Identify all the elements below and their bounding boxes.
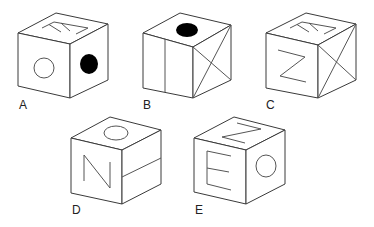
option-label-a: A <box>19 98 27 112</box>
cube-b[interactable]: B <box>143 13 231 112</box>
cube-e[interactable]: E <box>194 117 285 217</box>
cube-e-front-face <box>194 138 246 204</box>
cube-a[interactable]: A <box>18 13 108 112</box>
cube-d[interactable]: D <box>71 117 161 217</box>
cube-a-front-face <box>18 33 70 98</box>
filled-circle-icon <box>80 54 98 74</box>
option-label-b: B <box>143 98 151 112</box>
cube-options-diagram: A B C <box>0 0 374 227</box>
option-label-e: E <box>195 203 203 217</box>
option-label-c: C <box>266 98 275 112</box>
cube-c[interactable]: C <box>266 13 356 112</box>
filled-circle-icon <box>176 23 198 37</box>
option-label-d: D <box>72 203 81 217</box>
cube-c-front-face <box>266 33 318 98</box>
